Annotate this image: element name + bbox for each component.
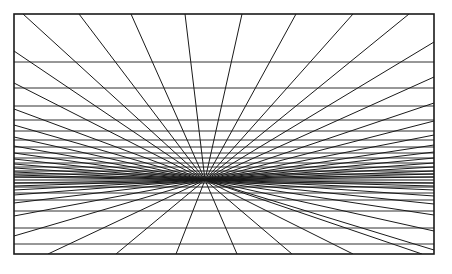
canvas-background — [0, 0, 452, 274]
perspective-grid-svg — [0, 0, 452, 274]
perspective-diagram — [0, 0, 452, 274]
